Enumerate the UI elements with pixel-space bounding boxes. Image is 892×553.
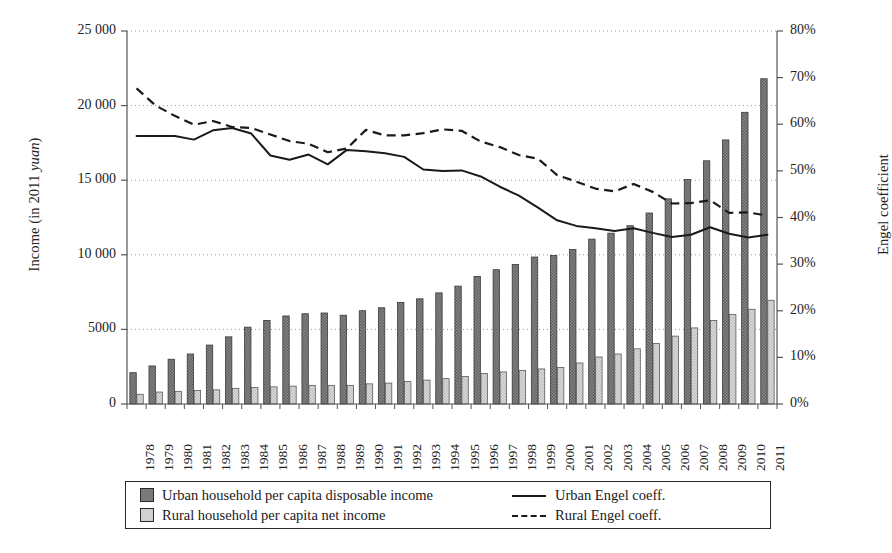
bar-urban-income bbox=[531, 257, 537, 404]
legend-item-rural-income: Rural household per capita net income bbox=[140, 505, 385, 525]
bar-rural-income bbox=[424, 380, 430, 404]
bar-urban-income bbox=[436, 293, 442, 404]
legend-label-rural-income: Rural household per capita net income bbox=[162, 507, 385, 524]
legend-swatch-rural-bar-icon bbox=[140, 508, 154, 522]
bar-urban-income bbox=[359, 311, 365, 404]
bar-urban-income bbox=[723, 140, 729, 404]
bars-layer bbox=[130, 79, 774, 404]
bar-rural-income bbox=[290, 386, 296, 404]
bar-urban-income bbox=[550, 256, 556, 404]
bar-rural-income bbox=[175, 391, 181, 404]
bar-rural-income bbox=[137, 394, 143, 404]
gridlines bbox=[127, 31, 777, 329]
bar-rural-income bbox=[405, 382, 411, 404]
bar-urban-income bbox=[512, 265, 518, 405]
axis-frame bbox=[121, 31, 783, 409]
bar-urban-income bbox=[264, 320, 270, 404]
bar-urban-income bbox=[321, 313, 327, 404]
bar-rural-income bbox=[500, 372, 506, 404]
legend-swatch-dashed-line-icon bbox=[512, 509, 546, 521]
bar-urban-income bbox=[378, 308, 384, 404]
line-urban-engel bbox=[137, 128, 768, 238]
legend-label-rural-engel: Rural Engel coeff. bbox=[555, 507, 661, 524]
bar-rural-income bbox=[557, 367, 563, 404]
line-rural-engel bbox=[137, 88, 768, 215]
chart-legend: Urban household per capita disposable in… bbox=[125, 481, 771, 529]
bar-urban-income bbox=[130, 373, 136, 404]
bar-urban-income bbox=[761, 79, 767, 404]
bar-urban-income bbox=[627, 226, 633, 404]
bar-rural-income bbox=[653, 344, 659, 404]
bar-rural-income bbox=[309, 385, 315, 404]
bar-urban-income bbox=[646, 213, 652, 404]
bar-urban-income bbox=[665, 199, 671, 404]
bar-urban-income bbox=[455, 286, 461, 404]
legend-label-urban-engel: Urban Engel coeff. bbox=[555, 487, 665, 504]
bar-urban-income bbox=[283, 316, 289, 404]
legend-item-rural-engel: Rural Engel coeff. bbox=[512, 505, 661, 525]
bar-urban-income bbox=[340, 315, 346, 404]
bar-rural-income bbox=[385, 383, 391, 404]
bar-urban-income bbox=[570, 250, 576, 404]
bar-urban-income bbox=[168, 359, 174, 404]
bar-rural-income bbox=[519, 370, 525, 404]
bar-rural-income bbox=[232, 388, 238, 404]
legend-item-urban-income: Urban household per capita disposable in… bbox=[140, 485, 433, 505]
bar-rural-income bbox=[730, 314, 736, 404]
bar-urban-income bbox=[703, 161, 709, 404]
bar-urban-income bbox=[684, 179, 690, 404]
bar-rural-income bbox=[691, 328, 697, 404]
bar-rural-income bbox=[443, 379, 449, 404]
bar-rural-income bbox=[672, 336, 678, 404]
bar-rural-income bbox=[710, 320, 716, 404]
bar-urban-income bbox=[417, 299, 423, 404]
bar-rural-income bbox=[596, 357, 602, 404]
bar-rural-income bbox=[634, 349, 640, 404]
bar-urban-income bbox=[187, 354, 193, 404]
bar-rural-income bbox=[252, 388, 258, 404]
bar-rural-income bbox=[347, 385, 353, 404]
bar-rural-income bbox=[615, 354, 621, 404]
bar-urban-income bbox=[225, 337, 231, 404]
bar-urban-income bbox=[398, 303, 404, 404]
legend-swatch-urban-bar-icon bbox=[140, 488, 154, 502]
bar-rural-income bbox=[366, 384, 372, 404]
bar-urban-income bbox=[742, 112, 748, 404]
bar-urban-income bbox=[589, 239, 595, 404]
bar-rural-income bbox=[768, 300, 774, 404]
bar-urban-income bbox=[493, 270, 499, 404]
bar-urban-income bbox=[206, 345, 212, 404]
bar-rural-income bbox=[271, 387, 277, 404]
bar-urban-income bbox=[474, 276, 480, 404]
bar-rural-income bbox=[577, 363, 583, 404]
bar-urban-income bbox=[302, 314, 308, 404]
bar-rural-income bbox=[156, 392, 162, 404]
bar-rural-income bbox=[213, 390, 219, 404]
legend-item-urban-engel: Urban Engel coeff. bbox=[512, 485, 665, 505]
bar-rural-income bbox=[538, 369, 544, 404]
bar-rural-income bbox=[481, 373, 487, 404]
legend-swatch-solid-line-icon bbox=[512, 489, 546, 501]
lines-layer bbox=[137, 88, 768, 237]
bar-rural-income bbox=[462, 376, 468, 404]
bar-rural-income bbox=[749, 309, 755, 404]
bar-urban-income bbox=[245, 327, 251, 404]
bar-urban-income bbox=[608, 233, 614, 404]
bar-rural-income bbox=[194, 391, 200, 404]
legend-label-urban-income: Urban household per capita disposable in… bbox=[162, 487, 433, 504]
bar-urban-income bbox=[149, 366, 155, 404]
bar-rural-income bbox=[328, 385, 334, 404]
